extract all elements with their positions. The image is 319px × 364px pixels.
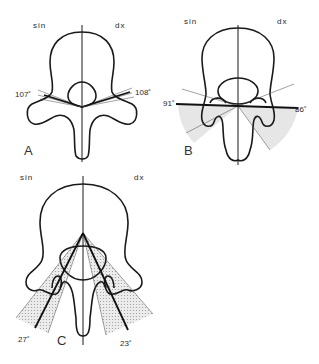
panel-b-right-angle: 86˚ — [295, 105, 307, 114]
panel-a-sin-label: sin — [33, 21, 46, 30]
panel-c-left-angle: 27˚ — [18, 335, 30, 344]
panel-a-left-angle: 107˚ — [15, 90, 31, 99]
figure-canvas: sin dx 107˚ 108˚ A sin dx — [0, 0, 319, 364]
panel-b-left-angle: 91˚ — [163, 99, 175, 108]
panel-b-sin-label: sin — [184, 17, 197, 26]
panel-a-label: A — [24, 143, 33, 158]
panel-b-label: B — [184, 143, 193, 158]
panel-c-dx-label: dx — [134, 173, 144, 182]
panel-b-dx-label: dx — [277, 17, 287, 26]
panel-a-dx-label: dx — [115, 21, 125, 30]
panel-a-right-angle: 108˚ — [135, 88, 151, 97]
panel-b: sin dx 91˚ 86˚ B — [163, 17, 307, 165]
panel-c: sin dx 27˚ 23˚ C — [16, 173, 153, 348]
panel-c-right-angle: 23˚ — [120, 339, 132, 348]
panel-b-left-shade — [178, 104, 238, 143]
panel-c-sin-label: sin — [20, 173, 33, 182]
panel-a: sin dx 107˚ 108˚ A — [15, 21, 151, 162]
panel-b-right-shade — [238, 106, 298, 150]
panel-c-label: C — [57, 333, 66, 348]
